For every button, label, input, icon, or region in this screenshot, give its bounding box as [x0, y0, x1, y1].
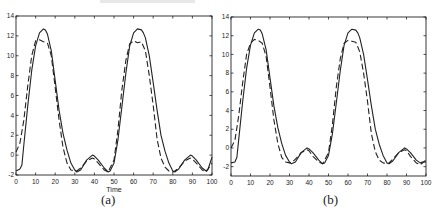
- y-tick-label: 12: [222, 32, 230, 39]
- x-tick-label: 90: [189, 178, 197, 185]
- x-tick-label: 30: [71, 178, 79, 185]
- caption-b: (b): [323, 192, 338, 208]
- y-tick-label: 4: [225, 107, 229, 114]
- x-tick-label: 20: [266, 179, 274, 186]
- y-tick-label: 10: [7, 52, 15, 59]
- x-tick-label: 60: [130, 178, 138, 185]
- y-tick-label: 4: [10, 112, 14, 119]
- x-tick-label: 60: [344, 179, 352, 186]
- chart-panel-a: 0102030405060708090100-202468101214Time: [0, 0, 220, 217]
- y-tick-label: 6: [225, 88, 229, 95]
- x-tick-label: 30: [286, 179, 294, 186]
- plot-frame: [231, 17, 426, 176]
- y-tick-label: 6: [10, 92, 14, 99]
- x-tick-label: 80: [169, 178, 177, 185]
- y-tick-label: 8: [10, 72, 14, 79]
- x-tick-label: 0: [14, 178, 18, 185]
- x-tick-label: 50: [110, 178, 118, 185]
- series-dashed: [16, 40, 212, 172]
- plot-frame: [16, 16, 212, 175]
- line-chart-b: 0102030405060708090100-202468101214: [219, 0, 439, 217]
- y-tick-label: 2: [10, 131, 14, 138]
- y-tick-label: 14: [7, 12, 15, 19]
- y-tick-label: 8: [225, 69, 229, 76]
- y-tick-label: 0: [225, 144, 229, 151]
- x-tick-label: 20: [52, 178, 60, 185]
- x-tick-label: 90: [403, 179, 411, 186]
- x-tick-label: 100: [421, 179, 432, 186]
- caption-a: (a): [101, 192, 115, 208]
- x-tick-label: 0: [229, 179, 233, 186]
- x-tick-label: 70: [150, 178, 158, 185]
- y-tick-label: 12: [7, 32, 15, 39]
- y-tick-label: 2: [225, 125, 229, 132]
- series-dashed: [231, 39, 426, 164]
- x-tick-label: 50: [325, 179, 333, 186]
- x-tick-label: 80: [383, 179, 391, 186]
- y-tick-label: -2: [8, 171, 14, 178]
- x-tick-label: 10: [32, 178, 40, 185]
- y-tick-label: 14: [222, 13, 230, 20]
- y-tick-label: 10: [222, 51, 230, 58]
- x-tick-label: 40: [91, 178, 99, 185]
- x-tick-label: 10: [247, 179, 255, 186]
- x-tick-label: 100: [207, 178, 218, 185]
- y-tick-label: 0: [10, 151, 14, 158]
- series-solid: [16, 29, 212, 172]
- x-tick-label: 70: [364, 179, 372, 186]
- x-tick-label: 40: [305, 179, 313, 186]
- chart-panel-b: 0102030405060708090100-202468101214: [219, 0, 439, 217]
- series-solid: [231, 29, 426, 164]
- line-chart-a: 0102030405060708090100-202468101214Time: [0, 0, 220, 217]
- y-tick-label: -2: [223, 163, 229, 170]
